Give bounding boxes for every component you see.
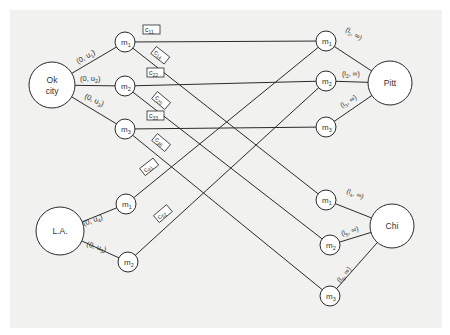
sink-edge-label-2: (l2, ∞) xyxy=(342,70,360,79)
cost-label-c36: c36 xyxy=(151,134,170,152)
cost-label-c11: c11 xyxy=(143,25,160,35)
sink-edge-label-4: (l4, ∞) xyxy=(345,187,365,202)
source-edge-label-5: (0, u5) xyxy=(85,239,108,255)
transportation-network-diagram: OkcityL.A.PittChim1m2m3m1m2m1m2m3m1m2m3 … xyxy=(0,0,450,335)
sink-edge-label-1: (l1, ∞) xyxy=(343,26,363,43)
sink-node-chi-label: Chi xyxy=(386,221,399,231)
source-node-la-label: L.A. xyxy=(52,226,67,236)
cost-edge-c36 xyxy=(125,129,330,296)
source-edge-label-4: (0, u4) xyxy=(82,212,105,229)
cost-edge-c11 xyxy=(125,41,326,42)
source-node-ok-city-label: Ok xyxy=(47,75,59,85)
cost-edge-c22 xyxy=(125,81,326,86)
edges-layer xyxy=(52,41,392,296)
cost-label-c22: c22 xyxy=(147,68,164,78)
cost-label-c41: c41 xyxy=(140,158,159,176)
source-edge-label-1: (0, u1) xyxy=(75,47,98,66)
source-node-ok-city xyxy=(29,62,75,108)
cost-label-c14: c14 xyxy=(150,46,169,64)
sink-edge-label-3: (l3, ∞) xyxy=(339,93,359,110)
cost-edge-c33 xyxy=(125,127,326,129)
source-edge-label-3: (0, u3) xyxy=(83,92,106,110)
cost-edge-c52 xyxy=(128,81,326,262)
cost-edge-c41 xyxy=(126,41,326,204)
sink-node-pitt-label: Pitt xyxy=(384,78,397,88)
source-node-ok-city-label-2: city xyxy=(46,86,60,96)
cost-label-c33: c33 xyxy=(147,111,164,121)
source-edge-label-2: (0, u2) xyxy=(80,74,101,84)
cost-label-c25: c25 xyxy=(151,92,170,110)
cost-label-c52: c52 xyxy=(154,205,173,223)
sink-edge-label-6: (l6, ∞) xyxy=(335,265,353,284)
